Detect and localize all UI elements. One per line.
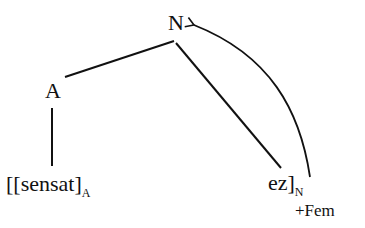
stem-bracket-close: ] — [74, 171, 81, 196]
node-a: A — [45, 80, 61, 102]
edge-n-to-a — [65, 41, 174, 77]
suffix-bracket-close: ] — [288, 170, 295, 195]
stem-text: sensat — [21, 171, 75, 196]
node-stem-sensat: [[sensat]A — [6, 173, 90, 195]
node-n-root: N — [168, 12, 184, 34]
stem-subscript: A — [82, 186, 91, 200]
stem-bracket-open: [[ — [6, 171, 21, 196]
feature-fem: +Fem — [295, 202, 335, 219]
edge-n-to-ez — [176, 43, 281, 168]
percolation-arrow — [194, 25, 310, 177]
node-suffix-ez: ez]N — [268, 172, 304, 194]
suffix-subscript: N — [295, 185, 304, 199]
suffix-text: ez — [268, 170, 288, 195]
